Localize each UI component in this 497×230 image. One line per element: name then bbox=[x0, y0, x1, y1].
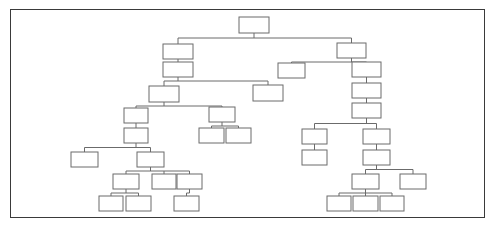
tree-node[interactable] bbox=[302, 150, 327, 165]
tree-node-box[interactable] bbox=[99, 196, 123, 211]
tree-node-box[interactable] bbox=[239, 17, 269, 33]
tree-node-box[interactable] bbox=[278, 63, 305, 78]
tree-node-box[interactable] bbox=[71, 152, 98, 167]
tree-node-box[interactable] bbox=[209, 107, 235, 122]
tree-node-box[interactable] bbox=[124, 108, 148, 123]
tree-node-box[interactable] bbox=[199, 128, 224, 143]
nodes-layer bbox=[71, 17, 426, 211]
tree-node-box[interactable] bbox=[124, 128, 148, 143]
tree-node[interactable] bbox=[99, 196, 123, 211]
tree-node[interactable] bbox=[380, 196, 404, 211]
tree-node[interactable] bbox=[353, 196, 378, 211]
tree-node[interactable] bbox=[124, 128, 148, 143]
tree-node[interactable] bbox=[302, 129, 327, 144]
tree-node[interactable] bbox=[337, 43, 366, 58]
tree-node-box[interactable] bbox=[337, 43, 366, 58]
tree-node[interactable] bbox=[400, 174, 426, 189]
tree-node[interactable] bbox=[174, 196, 199, 211]
tree-node[interactable] bbox=[352, 62, 381, 77]
tree-node-box[interactable] bbox=[352, 174, 379, 189]
tree-node[interactable] bbox=[239, 17, 269, 33]
tree-node[interactable] bbox=[124, 108, 148, 123]
tree-node-box[interactable] bbox=[226, 128, 251, 143]
tree-node-box[interactable] bbox=[253, 85, 283, 101]
tree-node-box[interactable] bbox=[163, 44, 193, 59]
tree-node-box[interactable] bbox=[149, 86, 179, 102]
tree-node-box[interactable] bbox=[302, 150, 327, 165]
tree-node[interactable] bbox=[126, 196, 151, 211]
tree-node[interactable] bbox=[209, 107, 235, 122]
tree-node-box[interactable] bbox=[363, 129, 390, 144]
screenshot-root bbox=[0, 0, 497, 230]
tree-node-box[interactable] bbox=[177, 174, 202, 189]
tree-node[interactable] bbox=[152, 174, 176, 189]
tree-node-box[interactable] bbox=[363, 150, 390, 165]
tree-node-box[interactable] bbox=[152, 174, 176, 189]
tree-node[interactable] bbox=[137, 152, 164, 167]
tree-node-box[interactable] bbox=[380, 196, 404, 211]
tree-node[interactable] bbox=[363, 150, 390, 165]
tree-node[interactable] bbox=[163, 62, 193, 77]
tree-node[interactable] bbox=[327, 196, 351, 211]
tree-node-box[interactable] bbox=[113, 174, 139, 189]
tree-node-box[interactable] bbox=[126, 196, 151, 211]
tree-node-box[interactable] bbox=[174, 196, 199, 211]
tree-node[interactable] bbox=[163, 44, 193, 59]
tree-node-box[interactable] bbox=[353, 196, 378, 211]
tree-node[interactable] bbox=[363, 129, 390, 144]
tree-node-box[interactable] bbox=[352, 62, 381, 77]
tree-node-box[interactable] bbox=[163, 62, 193, 77]
tree-node[interactable] bbox=[177, 174, 202, 189]
tree-node[interactable] bbox=[352, 83, 381, 98]
tree-node[interactable] bbox=[226, 128, 251, 143]
tree-node-box[interactable] bbox=[327, 196, 351, 211]
tree-node-box[interactable] bbox=[352, 83, 381, 98]
tree-diagram bbox=[0, 0, 497, 230]
tree-edge bbox=[187, 189, 190, 196]
tree-node[interactable] bbox=[352, 174, 379, 189]
tree-node[interactable] bbox=[149, 86, 179, 102]
tree-node-box[interactable] bbox=[137, 152, 164, 167]
tree-node[interactable] bbox=[278, 63, 305, 78]
tree-node[interactable] bbox=[113, 174, 139, 189]
tree-node[interactable] bbox=[352, 103, 381, 118]
tree-node[interactable] bbox=[71, 152, 98, 167]
tree-node[interactable] bbox=[253, 85, 283, 101]
tree-node-box[interactable] bbox=[302, 129, 327, 144]
tree-node-box[interactable] bbox=[400, 174, 426, 189]
tree-node-box[interactable] bbox=[352, 103, 381, 118]
tree-node[interactable] bbox=[199, 128, 224, 143]
